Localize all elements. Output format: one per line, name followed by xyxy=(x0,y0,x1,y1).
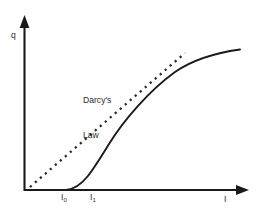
x-tick-label-i0-subscript: 0 xyxy=(63,197,66,203)
x-tick-label-i1-subscript: 1 xyxy=(92,197,95,203)
darcys-law-annotation-line2: Law xyxy=(83,130,111,142)
x-tick-label-i1: I1 xyxy=(90,192,96,202)
chart-figure: q I I0 I1 Darcy's Law xyxy=(0,0,263,222)
darcys-law-annotation: Darcy's Law xyxy=(83,72,111,164)
x-axis-label: I xyxy=(224,194,226,204)
y-axis-label: q xyxy=(11,30,16,40)
y-axis-arrowhead xyxy=(20,15,30,28)
darcys-law-annotation-line1: Darcy's xyxy=(83,95,111,107)
chart-canvas xyxy=(0,0,263,222)
axes-group xyxy=(20,15,249,195)
x-tick-label-i0: I0 xyxy=(61,192,67,202)
series-group xyxy=(30,50,240,191)
x-axis-arrowhead xyxy=(236,185,249,195)
